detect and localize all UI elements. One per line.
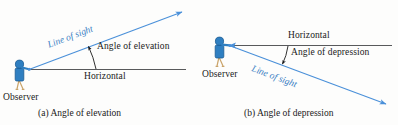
panel-b-observer-label: Observer — [202, 69, 238, 79]
panel-b-angle-label: Angle of depression — [291, 47, 369, 57]
panel-b-observer-figure — [215, 37, 231, 66]
panel-b-graphics — [0, 0, 398, 125]
panel-b-caption: (b) Angle of depression — [244, 108, 333, 118]
panel-b-horizontal-label: Horizontal — [288, 30, 330, 40]
figure-container: Line of sight Angle of elevation Horizon… — [0, 0, 398, 125]
panel-b-angle-arc — [283, 46, 289, 64]
